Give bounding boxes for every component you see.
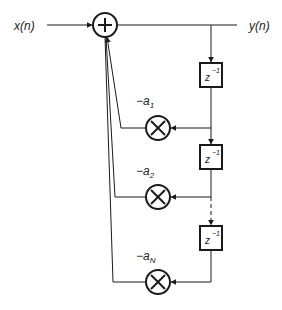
multiplier-1	[146, 116, 170, 140]
svg-text:−1: −1	[212, 230, 220, 237]
output-label: y(n)	[248, 19, 270, 33]
feedback-line-n	[105, 37, 146, 282]
feedback-line-1	[107, 37, 146, 128]
svg-text:−1: −1	[212, 67, 220, 74]
coef-label-2: −a2	[136, 164, 155, 180]
coef-label-1: −a1	[136, 94, 154, 110]
svg-text:z: z	[204, 235, 210, 246]
multiplier-n	[146, 270, 170, 294]
iir-filter-diagram: x(n) y(n) z −1 z −1 z −1 −a1	[0, 0, 282, 310]
delay-block-2: z −1	[200, 145, 222, 169]
input-label: x(n)	[13, 19, 35, 33]
multiplier-2	[146, 185, 170, 209]
coef-label-n: −aN	[136, 249, 156, 265]
svg-text:z: z	[204, 72, 210, 83]
svg-text:−1: −1	[212, 149, 220, 156]
adder	[93, 13, 117, 37]
svg-text:z: z	[204, 154, 210, 165]
delay-block-n: z −1	[200, 226, 222, 250]
delay-block-1: z −1	[200, 63, 222, 87]
